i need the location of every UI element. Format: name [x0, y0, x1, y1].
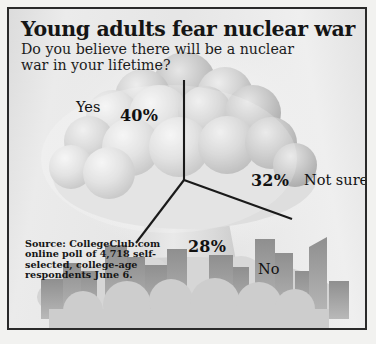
pie-value-no: 28%	[188, 237, 226, 256]
pie-label-no: No	[258, 261, 279, 277]
pie-label-not-sure: Not sure	[304, 172, 367, 188]
page-title: Young adults fear nuclear war	[21, 17, 355, 41]
pie-value-not-sure: 32%	[251, 171, 289, 190]
infographic-frame: Young adults fear nuclear war Do you bel…	[7, 7, 367, 330]
pie-label-yes: Yes	[76, 99, 100, 115]
infographic-image: Young adults fear nuclear war Do you bel…	[0, 0, 376, 344]
source-note: Source: CollegeClub.com online poll of 4…	[25, 239, 173, 281]
pie-value-yes: 40%	[120, 106, 158, 125]
pie-line-left	[136, 180, 184, 243]
survey-question: Do you believe there will be a nuclear w…	[21, 42, 321, 73]
